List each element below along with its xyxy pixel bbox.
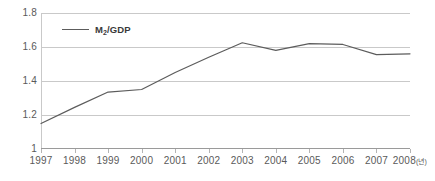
legend-label-m2-gdp: M2/GDP (95, 24, 131, 35)
x-axis-tick-mark (343, 149, 344, 153)
x-axis-labels: 1997199819992000200120022003200420052006… (41, 155, 410, 173)
y-axis-tick-label: 1.6 (3, 42, 37, 52)
x-axis-tick-label: 1999 (97, 155, 120, 166)
y-axis-tick-label: 1.2 (3, 110, 37, 120)
x-axis-tick-mark (410, 149, 411, 153)
legend-line-swatch (62, 29, 89, 30)
y-axis-tick-label: 1.4 (3, 76, 37, 86)
x-axis-tick-mark (75, 149, 76, 153)
x-axis-tick-label: 2007 (365, 155, 388, 166)
x-axis-tick-label: 2006 (331, 155, 354, 166)
x-axis-tick-mark (209, 149, 210, 153)
x-axis-tick-mark (41, 149, 42, 153)
legend-label-subscript: 2 (103, 29, 107, 36)
x-axis-tick-label: 2005 (298, 155, 321, 166)
chart-legend: M2/GDP (62, 24, 131, 35)
x-axis-tick-marks (41, 149, 410, 154)
x-axis-tick-label: 2004 (264, 155, 287, 166)
x-axis-tick-mark (276, 149, 277, 153)
x-axis-tick-mark (242, 149, 243, 153)
x-axis-tick-mark (309, 149, 310, 153)
x-axis-tick-mark (376, 149, 377, 153)
x-axis-tick-label: 1998 (63, 155, 86, 166)
chart-figure: 1.8 1.6 1.4 1.2 1 1997199819992000200120… (0, 0, 435, 181)
x-axis-tick-label: 2000 (130, 155, 153, 166)
y-axis-tick-label: 1 (3, 144, 37, 154)
x-axis-tick-mark (175, 149, 176, 153)
x-axis-tick-mark (108, 149, 109, 153)
x-axis-tick-label: 2002 (197, 155, 220, 166)
x-axis-unit-note: (년) (416, 158, 427, 165)
y-axis-tick-label: 1.8 (3, 8, 37, 18)
x-axis-tick-label: 2003 (231, 155, 254, 166)
x-axis-tick-label: 1997 (29, 155, 52, 166)
x-axis-tick-label: 2008(년) (393, 155, 427, 167)
x-axis-tick-label: 2001 (164, 155, 187, 166)
x-axis-tick-mark (142, 149, 143, 153)
